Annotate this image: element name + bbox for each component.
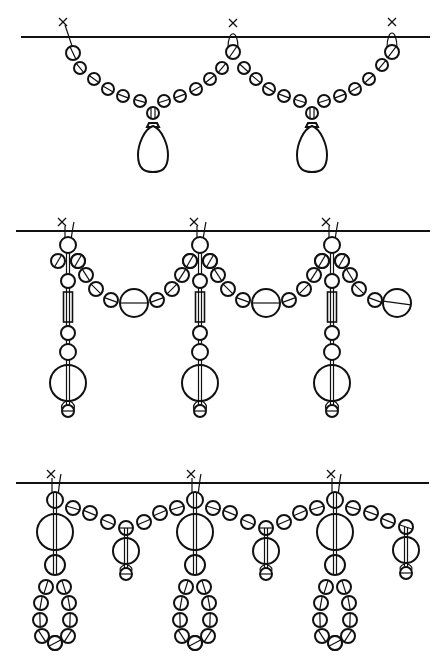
column-bead — [325, 326, 339, 340]
beading-diagram — [0, 0, 445, 671]
pendant-round-bead — [113, 538, 139, 564]
large-round-bead — [317, 514, 353, 550]
bugle-bead — [196, 292, 205, 322]
pendant-round-bead — [253, 538, 279, 564]
large-round-bead — [182, 365, 218, 401]
large-round-bead — [50, 365, 86, 401]
bugle-bead — [64, 292, 73, 322]
large-round-bead — [177, 514, 213, 550]
pattern-3-loops-and-pendants — [16, 470, 429, 650]
column-bead — [325, 274, 339, 288]
column-bead — [192, 344, 208, 360]
column-bead — [324, 344, 340, 360]
pendant-round-bead — [393, 537, 419, 563]
column-bead — [45, 555, 65, 575]
column-bead — [193, 326, 207, 340]
column-top-bead — [47, 492, 63, 508]
column-top-bead — [327, 492, 343, 508]
large-round-bead — [37, 514, 73, 550]
teardrop-bead — [297, 126, 327, 172]
column-top-bead — [60, 237, 76, 253]
pattern-1-teardrop-swags — [21, 18, 430, 172]
column-bead — [325, 555, 345, 575]
column-top-bead — [324, 237, 340, 253]
pendant-bead — [306, 107, 318, 119]
column-bead — [193, 274, 207, 288]
column-top-bead — [187, 492, 203, 508]
thread-start — [65, 25, 72, 46]
pattern-2-columns-with-swags — [16, 218, 430, 417]
teardrop-bead — [138, 126, 168, 172]
column-bead — [60, 344, 76, 360]
column-bead — [61, 274, 75, 288]
column-bead — [185, 555, 205, 575]
bugle-bead — [328, 292, 337, 322]
large-round-bead — [314, 365, 350, 401]
column-top-bead — [192, 237, 208, 253]
column-bead — [61, 326, 75, 340]
pendant-bead — [147, 107, 159, 119]
